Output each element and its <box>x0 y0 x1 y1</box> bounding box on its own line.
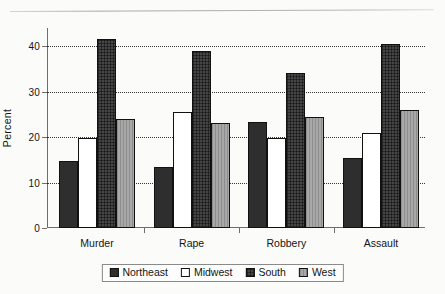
x-axis-label-assault: Assault <box>364 237 398 249</box>
legend-item-midwest[interactable]: Midwest <box>181 267 233 278</box>
bar-robbery-south <box>286 73 305 228</box>
x-axis-label-murder: Murder <box>80 237 113 249</box>
bar-assault-midwest <box>362 133 381 228</box>
bar-robbery-northeast <box>248 122 267 228</box>
x-tick-2 <box>334 228 335 233</box>
legend-label: West <box>312 267 336 278</box>
swatch-south-icon <box>245 268 254 277</box>
legend-label: South <box>258 267 285 278</box>
y-tick-10 <box>42 183 47 184</box>
bar-murder-midwest <box>78 138 97 228</box>
swatch-northeast-icon <box>109 268 118 277</box>
y-tick-0 <box>42 228 47 229</box>
swatch-west-icon <box>299 268 308 277</box>
y-tick-label-40: 40 <box>28 41 40 52</box>
y-tick-label-20: 20 <box>28 132 40 143</box>
bar-rape-west <box>211 123 230 228</box>
y-axis-title: Percent <box>1 109 13 147</box>
bar-rape-northeast <box>154 167 173 228</box>
bar-assault-west <box>400 110 419 228</box>
y-tick-label-0: 0 <box>34 223 40 234</box>
page-rule-line <box>10 9 434 12</box>
x-tick-0 <box>144 228 145 233</box>
legend-label: Midwest <box>194 267 233 278</box>
y-tick-20 <box>42 137 47 138</box>
swatch-midwest-icon <box>181 268 190 277</box>
bar-murder-south <box>97 39 116 228</box>
bar-assault-south <box>381 44 400 228</box>
legend-item-south[interactable]: South <box>245 267 285 278</box>
legend-label: Northeast <box>122 267 168 278</box>
chart-figure: Percent 010203040 MurderRapeRobberyAssau… <box>0 0 445 294</box>
bar-assault-northeast <box>343 158 362 228</box>
bar-murder-northeast <box>59 161 78 228</box>
y-tick-40 <box>42 46 47 47</box>
bar-rape-south <box>192 51 211 228</box>
bar-rape-midwest <box>173 112 192 228</box>
legend-item-west[interactable]: West <box>299 267 336 278</box>
legend-item-northeast[interactable]: Northeast <box>109 267 168 278</box>
plot-area: Percent 010203040 MurderRapeRobberyAssau… <box>47 28 425 228</box>
x-tick-1 <box>239 228 240 233</box>
x-axis-label-robbery: Robbery <box>266 237 306 249</box>
y-tick-30 <box>42 92 47 93</box>
bar-robbery-west <box>305 117 324 228</box>
x-axis-label-rape: Rape <box>179 237 204 249</box>
bar-murder-west <box>116 119 135 228</box>
chart-legend: NortheastMidwestSouthWest <box>101 264 343 282</box>
y-axis <box>47 28 48 228</box>
bar-robbery-midwest <box>267 138 286 228</box>
y-tick-label-10: 10 <box>28 177 40 188</box>
y-tick-label-30: 30 <box>28 86 40 97</box>
